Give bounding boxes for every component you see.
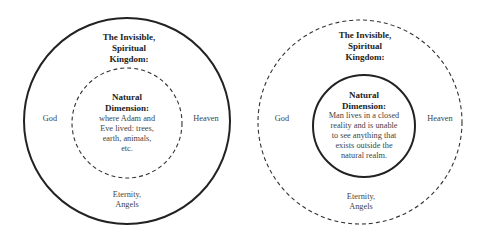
text-line: exists outside the <box>312 141 416 151</box>
text-line: earth, animals, <box>84 134 170 144</box>
text-line: Eternity, <box>334 192 388 202</box>
text-line: to see anything that <box>312 131 416 141</box>
text-line: etc. <box>84 144 170 154</box>
text-line: Man lives in a closed <box>312 111 416 121</box>
title-line: Kingdom: <box>82 54 176 65</box>
right-god-label: God <box>270 114 294 124</box>
right-outer-title: The Invisible, Spiritual Kingdom: <box>318 30 412 63</box>
left-inner-title: Natural Dimension: <box>90 92 164 114</box>
text-line: Angels <box>100 200 154 210</box>
text-line: Eve lived: trees, <box>84 124 170 134</box>
left-bottom-label: Eternity, Angels <box>100 190 154 210</box>
title-line: The Invisible, <box>318 30 412 41</box>
title-line: Dimension: <box>90 103 164 114</box>
title-line: Spiritual <box>318 41 412 52</box>
title-line: Natural <box>327 90 401 101</box>
text-line: natural realm. <box>312 151 416 161</box>
right-inner-text: Man lives in a closed reality and is una… <box>312 111 416 161</box>
left-outer-title: The Invisible, Spiritual Kingdom: <box>82 32 176 65</box>
text-line: Angels <box>334 202 388 212</box>
text-line: Eternity, <box>100 190 154 200</box>
text-line: where Adam and <box>84 114 170 124</box>
title-line: Kingdom: <box>318 52 412 63</box>
title-line: Natural <box>90 92 164 103</box>
title-line: The Invisible, <box>82 32 176 43</box>
title-line: Spiritual <box>82 43 176 54</box>
left-heaven-label: Heaven <box>190 114 222 124</box>
text-line: reality and is unable <box>312 121 416 131</box>
left-god-label: God <box>38 114 62 124</box>
right-heaven-label: Heaven <box>424 114 456 124</box>
left-inner-text: where Adam and Eve lived: trees, earth, … <box>84 114 170 154</box>
right-bottom-label: Eternity, Angels <box>334 192 388 212</box>
right-inner-title: Natural Dimension: <box>327 90 401 112</box>
